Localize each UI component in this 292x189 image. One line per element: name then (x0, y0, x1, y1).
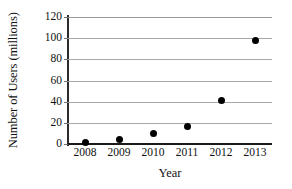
data-point (218, 97, 225, 104)
gridline (68, 38, 272, 39)
x-axis-tick-labels: 200820092010201120122013 (68, 147, 272, 165)
x-tick-label: 2013 (244, 147, 267, 159)
scatter-chart: Number of Users (millions) 0204060801001… (0, 0, 292, 189)
y-axis-title: Number of Users (millions) (0, 0, 26, 160)
x-tick-label: 2010 (142, 147, 165, 159)
data-point (116, 136, 123, 143)
x-axis-title: Year (68, 167, 272, 180)
y-tick-mark (64, 59, 68, 60)
y-axis-tick-labels: 020406080100120 (26, 14, 66, 145)
y-tick-mark (64, 17, 68, 18)
y-tick-mark (64, 123, 68, 124)
gridline (68, 81, 272, 82)
y-axis-title-label: Number of Users (millions) (7, 12, 20, 148)
data-point (184, 123, 191, 130)
gridline (68, 123, 272, 124)
y-tick-label: 60 (51, 75, 63, 87)
y-tick-label: 20 (51, 117, 63, 129)
y-tick-label: 120 (45, 11, 62, 23)
y-tick-label: 40 (51, 96, 63, 108)
y-tick-mark (64, 81, 68, 82)
x-axis-line (67, 143, 272, 145)
plot-area (68, 17, 272, 144)
data-point (150, 130, 157, 137)
x-tick-label: 2011 (176, 147, 199, 159)
y-tick-mark (64, 38, 68, 39)
x-tick-label: 2008 (74, 147, 97, 159)
y-tick-label: 80 (51, 54, 63, 66)
data-point (252, 37, 259, 44)
gridline (68, 59, 272, 60)
gridline (68, 17, 272, 18)
y-tick-label: 0 (56, 138, 62, 150)
y-tick-mark (64, 144, 68, 145)
x-tick-label: 2012 (210, 147, 233, 159)
gridline (68, 102, 272, 103)
y-tick-mark (64, 102, 68, 103)
y-tick-label: 100 (45, 32, 62, 44)
x-tick-label: 2009 (108, 147, 131, 159)
